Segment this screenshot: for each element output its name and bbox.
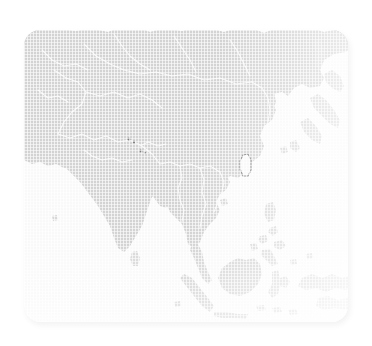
region-sulawesi: [268, 270, 290, 298]
region-borneo: [218, 258, 262, 296]
taiwan-outline[interactable]: [240, 154, 251, 176]
marker-3[interactable]: [140, 150, 143, 153]
region-hainan: [220, 198, 228, 206]
marker-1[interactable]: [128, 138, 131, 141]
marker-2[interactable]: [133, 141, 135, 143]
region-java: [214, 312, 248, 319]
map-panel[interactable]: [24, 30, 348, 322]
asia-pacific-region-map[interactable]: [0, 0, 372, 346]
region-indochina: [166, 166, 230, 284]
map-vector-layer: [24, 30, 348, 322]
region-philippines: [250, 202, 286, 266]
region-new-guinea: [298, 274, 348, 310]
region-sri-lanka: [130, 251, 140, 266]
marker-4[interactable]: [144, 152, 146, 154]
